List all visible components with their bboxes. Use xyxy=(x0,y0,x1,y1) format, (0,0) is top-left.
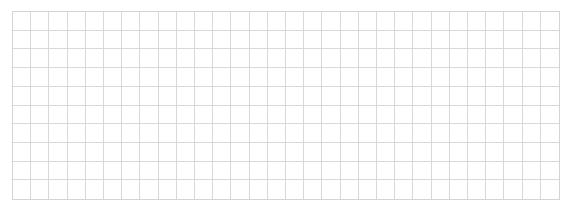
grid-cell xyxy=(286,180,304,199)
grid-cell xyxy=(250,143,268,162)
grid-cell xyxy=(322,143,340,162)
grid-cell xyxy=(450,87,468,106)
grid-cell xyxy=(486,12,504,31)
grid-cell xyxy=(195,68,213,87)
grid-cell xyxy=(322,87,340,106)
grid-cell xyxy=(341,162,359,181)
grid-cell xyxy=(377,124,395,143)
grid-cell xyxy=(86,106,104,125)
grid-cell xyxy=(177,162,195,181)
grid-cell xyxy=(195,143,213,162)
grid-cell xyxy=(13,124,31,143)
grid-cell xyxy=(413,124,431,143)
grid-cell xyxy=(231,68,249,87)
grid-cell xyxy=(104,12,122,31)
grid-cell xyxy=(486,106,504,125)
grid-cell xyxy=(432,68,450,87)
grid-cell xyxy=(122,49,140,68)
grid-cell xyxy=(195,106,213,125)
grid-cell xyxy=(177,49,195,68)
grid-cell xyxy=(468,124,486,143)
grid-cell xyxy=(432,124,450,143)
grid-cell xyxy=(450,68,468,87)
grid-cell xyxy=(86,180,104,199)
grid-cell xyxy=(486,68,504,87)
grid-cell xyxy=(122,180,140,199)
grid-cell xyxy=(159,106,177,125)
grid-cell xyxy=(486,162,504,181)
grid-cell xyxy=(377,87,395,106)
grid-cell xyxy=(468,143,486,162)
grid-cell xyxy=(159,143,177,162)
grid-cell xyxy=(231,143,249,162)
grid-cell xyxy=(341,49,359,68)
grid-cell xyxy=(286,143,304,162)
grid-cell xyxy=(468,162,486,181)
grid-cell xyxy=(31,49,49,68)
grid-cell xyxy=(250,12,268,31)
grid-cell xyxy=(268,12,286,31)
grid-cell xyxy=(504,162,522,181)
grid-cell xyxy=(432,106,450,125)
grid-cell xyxy=(195,12,213,31)
grid-cell xyxy=(395,12,413,31)
grid-cell xyxy=(322,68,340,87)
grid-cell xyxy=(86,143,104,162)
grid-cell xyxy=(195,49,213,68)
grid-cell xyxy=(31,180,49,199)
grid-cell xyxy=(104,87,122,106)
grid-cell xyxy=(468,87,486,106)
grid-cell xyxy=(104,106,122,125)
grid-cell xyxy=(395,143,413,162)
grid-cell xyxy=(250,49,268,68)
grid-cell xyxy=(377,49,395,68)
grid-cell xyxy=(450,31,468,50)
grid-cell xyxy=(104,162,122,181)
grid-cell xyxy=(68,12,86,31)
grid-cell xyxy=(432,180,450,199)
grid-cell xyxy=(195,124,213,143)
grid-cell xyxy=(268,106,286,125)
grid-cell xyxy=(250,68,268,87)
grid-cell xyxy=(468,180,486,199)
grid-cell xyxy=(286,106,304,125)
grid-cell xyxy=(486,180,504,199)
grid-cell xyxy=(468,12,486,31)
grid-cell xyxy=(268,180,286,199)
grid-cell xyxy=(359,12,377,31)
grid-cell xyxy=(450,106,468,125)
grid-cell xyxy=(13,49,31,68)
grid-cell xyxy=(450,49,468,68)
grid-cell xyxy=(523,12,541,31)
grid-cell xyxy=(140,12,158,31)
grid-cell xyxy=(504,49,522,68)
grid-cell xyxy=(268,31,286,50)
grid-cell xyxy=(523,49,541,68)
grid-cell xyxy=(486,87,504,106)
grid-cell xyxy=(159,49,177,68)
grid-cell xyxy=(377,31,395,50)
grid-cell xyxy=(268,143,286,162)
grid-cell xyxy=(140,106,158,125)
grid-cell xyxy=(504,68,522,87)
grid-cell xyxy=(268,124,286,143)
grid-cell xyxy=(231,87,249,106)
grid-cell xyxy=(68,143,86,162)
grid-cell xyxy=(268,68,286,87)
grid-cell xyxy=(122,124,140,143)
grid-cell xyxy=(432,49,450,68)
grid-cell xyxy=(213,180,231,199)
grid-cell xyxy=(213,31,231,50)
grid-cell xyxy=(413,68,431,87)
grid-cell xyxy=(304,12,322,31)
grid-cell xyxy=(395,68,413,87)
grid-cell xyxy=(341,68,359,87)
grid-cell xyxy=(213,49,231,68)
grid-cell xyxy=(49,106,67,125)
grid-cell xyxy=(322,49,340,68)
grid-cell xyxy=(304,124,322,143)
grid-cell xyxy=(541,162,559,181)
grid-cell xyxy=(140,143,158,162)
grid-cell xyxy=(31,106,49,125)
grid-cell xyxy=(395,124,413,143)
